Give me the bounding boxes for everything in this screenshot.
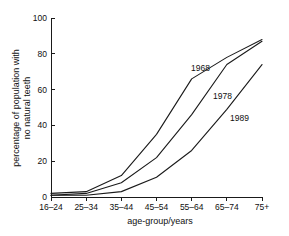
series-line-1989 <box>51 65 262 196</box>
y-tick-label: 80 <box>38 49 48 59</box>
y-axis-tick-labels: 100 80 60 40 20 0 <box>33 13 47 202</box>
x-tick-label: 25–34 <box>74 202 98 212</box>
series-label-1989: 1989 <box>230 113 249 123</box>
x-tick-label: 55–64 <box>180 202 204 212</box>
y-tick-label: 100 <box>33 13 47 23</box>
chart-figure: 100 80 60 40 20 0 16–24 25–34 35–44 45–5… <box>0 0 289 236</box>
series-label-1978: 1978 <box>213 91 232 101</box>
x-tick-label: 35–44 <box>109 202 133 212</box>
y-axis-title-line1: percentage of population with <box>11 49 21 167</box>
y-tick-label: 0 <box>42 192 47 202</box>
x-tick-label: 16–24 <box>39 202 63 212</box>
x-tick-label: 65–74 <box>215 202 239 212</box>
y-tick-label: 40 <box>38 120 48 130</box>
y-tick-label: 20 <box>38 156 48 166</box>
y-axis-title-line2: no natural teeth <box>22 77 32 140</box>
x-tick-label: 45–54 <box>145 202 169 212</box>
series-label-1968: 1968 <box>191 63 210 73</box>
x-axis-tick-labels: 16–24 25–34 35–44 45–54 55–64 65–74 75+ <box>39 202 269 212</box>
line-chart: 100 80 60 40 20 0 16–24 25–34 35–44 45–5… <box>0 0 289 236</box>
x-axis-ticks <box>51 197 262 201</box>
x-axis-title: age-group/years <box>127 216 193 226</box>
x-tick-label: 75+ <box>255 202 269 212</box>
y-tick-label: 60 <box>38 85 48 95</box>
y-axis-ticks <box>51 18 55 197</box>
